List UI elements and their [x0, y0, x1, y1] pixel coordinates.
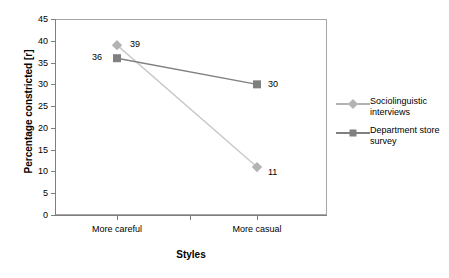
y-axis-tick-label-text: 0	[43, 211, 48, 220]
square-marker-icon	[348, 128, 358, 138]
legend-label-line1: Sociolinguistic	[370, 96, 427, 107]
y-axis-tick	[51, 19, 55, 20]
chart-legend: Sociolinguistic interviews Department st…	[336, 96, 448, 154]
data-label-department-more-casual: 30	[268, 80, 278, 89]
y-axis-line	[55, 19, 56, 216]
legend-label-line1: Department store	[370, 125, 440, 136]
data-label-department-more-careful: 36	[92, 53, 102, 62]
y-axis-tick	[51, 41, 55, 42]
data-label-sociolinguistic-more-careful: 39	[130, 40, 140, 49]
y-axis-tick-label: 0	[24, 211, 48, 220]
y-axis-tick-label-text: 30	[38, 80, 48, 89]
y-axis-tick	[51, 171, 55, 172]
legend-label-line2: interviews	[370, 107, 427, 118]
y-axis-tick-label-text: 5	[43, 189, 48, 198]
y-axis-tick	[51, 193, 55, 194]
x-axis-tick-mid	[190, 216, 191, 220]
y-axis-tick-label-text: 45	[38, 15, 48, 24]
y-axis-tick-label-text: 40	[38, 37, 48, 46]
y-axis-tick-label-text: 15	[38, 146, 48, 155]
legend-key-sociolinguistic	[336, 97, 370, 111]
y-axis-tick-label-text: 20	[38, 124, 48, 133]
y-axis-title: Percentage constricted [r]	[23, 32, 34, 192]
y-axis-tick	[51, 63, 55, 64]
diamond-marker-icon	[348, 99, 358, 109]
x-axis-label-more-casual: More casual	[207, 224, 307, 235]
y-axis-tick-label: 45	[24, 15, 48, 24]
x-axis-line	[55, 215, 327, 216]
legend-item-department-store-survey[interactable]: Department store survey	[336, 125, 448, 147]
x-axis-title: Styles	[55, 249, 327, 260]
x-axis-tick-1	[117, 216, 118, 220]
legend-label-sociolinguistic: Sociolinguistic interviews	[370, 96, 427, 118]
plot-area	[55, 19, 327, 215]
legend-item-sociolinguistic-interviews[interactable]: Sociolinguistic interviews	[336, 96, 448, 118]
legend-key-department	[336, 126, 370, 140]
y-axis-tick-label-text: 35	[38, 59, 48, 68]
y-axis-tick	[51, 128, 55, 129]
x-axis-label-more-careful: More careful	[67, 224, 167, 235]
y-axis-tick-label-text: 25	[38, 102, 48, 111]
x-axis-tick-2	[257, 216, 258, 220]
y-axis-tick	[51, 215, 55, 216]
y-axis-tick	[51, 106, 55, 107]
legend-label-line2: survey	[370, 136, 440, 147]
legend-label-department: Department store survey	[370, 125, 440, 147]
chart-screenshot: 454035302520151050 More careful More cas…	[0, 0, 449, 278]
data-label-sociolinguistic-more-casual: 11	[268, 168, 277, 177]
y-axis-tick-label-text: 10	[38, 167, 48, 176]
y-axis-tick	[51, 150, 55, 151]
y-axis-tick	[51, 84, 55, 85]
